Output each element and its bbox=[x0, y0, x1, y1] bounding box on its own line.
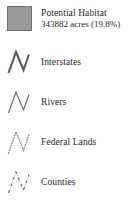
legend-item-label: Counties bbox=[41, 177, 76, 188]
potential-habitat-swatch-icon bbox=[7, 6, 32, 31]
legend-item-label: Interstates bbox=[41, 57, 81, 68]
legend-item-label: Federal Lands bbox=[41, 137, 96, 148]
map-legend: Potential Habitat 343882 acres (19.8%) I… bbox=[0, 0, 137, 202]
legend-label-cell: Counties bbox=[41, 177, 76, 188]
federal-lands-line-icon bbox=[7, 129, 37, 155]
legend-item-sublabel: 343882 acres (19.8%) bbox=[41, 19, 120, 30]
legend-label-cell: Potential Habitat 343882 acres (19.8%) bbox=[41, 8, 120, 30]
legend-item-label: Rivers bbox=[41, 97, 66, 108]
legend-item-label: Potential Habitat bbox=[41, 8, 120, 19]
legend-item-potential-habitat[interactable]: Potential Habitat 343882 acres (19.8%) bbox=[0, 2, 137, 35]
legend-label-cell: Federal Lands bbox=[41, 137, 96, 148]
counties-line-icon bbox=[7, 169, 37, 195]
legend-symbol-cell bbox=[7, 87, 41, 117]
legend-symbol-cell bbox=[7, 167, 41, 197]
legend-item-counties[interactable]: Counties bbox=[0, 166, 137, 198]
legend-item-federal-lands[interactable]: Federal Lands bbox=[0, 126, 137, 158]
legend-label-cell: Interstates bbox=[41, 57, 81, 68]
legend-item-rivers[interactable]: Rivers bbox=[0, 86, 137, 118]
legend-symbol-cell bbox=[7, 4, 41, 34]
legend-item-interstates[interactable]: Interstates bbox=[0, 46, 137, 78]
interstates-line-icon bbox=[7, 49, 37, 75]
legend-label-cell: Rivers bbox=[41, 97, 66, 108]
legend-symbol-cell bbox=[7, 127, 41, 157]
rivers-line-icon bbox=[7, 89, 37, 115]
legend-symbol-cell bbox=[7, 47, 41, 77]
